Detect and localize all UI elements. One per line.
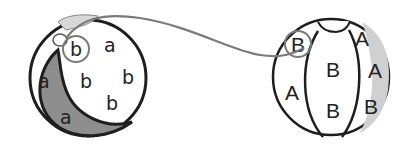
letter: b — [80, 70, 92, 92]
letter: A — [355, 27, 369, 50]
letter: b — [70, 38, 82, 60]
letter: B — [326, 99, 340, 122]
letter: a — [38, 70, 50, 92]
letter: a — [104, 34, 116, 56]
letter-match-diagram: b a a b b b a B A B A A B B — [0, 0, 414, 151]
letter: B — [364, 95, 378, 118]
letter: b — [122, 66, 134, 88]
letter: A — [285, 81, 299, 104]
letter: a — [60, 106, 72, 128]
lowercase-ball: b a a b b b a — [30, 15, 146, 136]
uppercase-ball: B A B A A B B — [273, 19, 389, 137]
letter: b — [106, 92, 118, 114]
letter: B — [326, 58, 340, 81]
letter: A — [368, 59, 382, 82]
